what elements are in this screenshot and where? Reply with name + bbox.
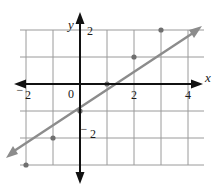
- y-tick-label-two: 2: [87, 24, 93, 38]
- minus-sign: −: [17, 83, 24, 97]
- origin-label: 0: [68, 87, 74, 101]
- axis-arrowheads: [14, 12, 203, 184]
- x-tick-label-four: 4: [185, 88, 191, 102]
- x-axis-label: x: [204, 70, 211, 85]
- coordinate-plane: x y 0 − 2 2 4 2 − 2: [0, 0, 220, 193]
- x-tick-value: 2: [25, 88, 31, 102]
- axes: [22, 20, 196, 176]
- x-axis-arrow-right: [191, 80, 203, 89]
- grid-lines: [20, 30, 204, 165]
- x-tick-label-two: 2: [131, 88, 137, 102]
- line-arrowhead-upper-right: [189, 26, 202, 38]
- y-tick-value: 2: [90, 127, 96, 141]
- y-axis-arrow-down: [76, 172, 85, 184]
- line-point-marker: [131, 54, 136, 59]
- line-point-marker: [158, 27, 163, 32]
- y-axis-label: y: [66, 17, 74, 32]
- plotted-line: [11, 31, 196, 153]
- line-point-marker: [50, 135, 55, 140]
- line-arrowhead-lower-left: [6, 146, 18, 158]
- line-point-marker: [23, 162, 28, 167]
- y-axis-arrow-up: [76, 12, 85, 24]
- minus-sign: −: [81, 122, 88, 136]
- coordinate-graph-figure: x y 0 − 2 2 4 2 − 2: [0, 0, 220, 193]
- plotted-line-group: [6, 26, 202, 168]
